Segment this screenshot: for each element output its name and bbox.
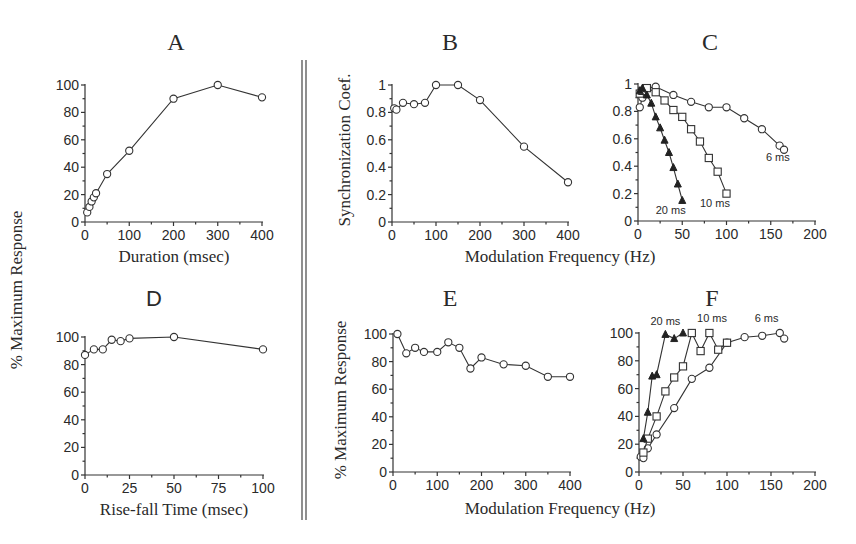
circle-marker — [104, 170, 111, 177]
triangle-marker — [648, 99, 655, 106]
triangle-marker — [662, 330, 669, 337]
x-tick-label: 200 — [803, 477, 827, 493]
series-response — [81, 333, 266, 358]
x-tick-label: 200 — [470, 477, 494, 493]
x-tick-label: 100 — [426, 477, 450, 493]
x-tick-label: 150 — [759, 226, 783, 242]
panel-letter-f: F — [705, 285, 718, 311]
x-tick-label: 100 — [715, 226, 739, 242]
x-tick-label: 100 — [424, 227, 448, 243]
y-tick-label: 0 — [379, 464, 387, 480]
circle-marker — [126, 335, 133, 342]
x-tick-label: 0 — [635, 477, 643, 493]
circle-marker — [670, 91, 677, 98]
series-label: 20 ms — [650, 315, 680, 327]
x-tick-label: 100 — [251, 480, 275, 496]
circle-marker — [410, 101, 417, 108]
circle-marker — [170, 333, 177, 340]
y-tick-label: 0.4 — [613, 158, 633, 174]
x-tick-label: 0 — [389, 477, 397, 493]
circle-marker — [723, 104, 730, 111]
y-tick-label: 0.6 — [613, 131, 633, 147]
y-tick-label: 100 — [610, 325, 634, 341]
series-sync — [391, 81, 572, 185]
y-tick-label: 20 — [63, 439, 79, 455]
square-marker — [662, 388, 669, 395]
square-marker — [688, 329, 695, 336]
y-tick-label: 40 — [371, 409, 387, 425]
circle-marker — [544, 373, 551, 380]
circle-marker — [522, 362, 529, 369]
triangle-marker — [644, 408, 651, 415]
x-tick-label: 400 — [558, 477, 582, 493]
circle-marker — [117, 338, 124, 345]
triangle-marker — [653, 371, 660, 378]
square-marker — [715, 346, 722, 353]
circle-marker — [564, 179, 571, 186]
triangle-marker — [670, 164, 677, 171]
y-tick-label: 80 — [371, 354, 387, 370]
square-marker — [688, 126, 695, 133]
circle-marker — [214, 81, 221, 88]
panel-divider — [302, 60, 306, 520]
y-tick-label: 0 — [624, 213, 632, 229]
y-tick-label: 80 — [63, 104, 79, 120]
circle-marker — [393, 106, 400, 113]
panel-letter-e: E — [443, 285, 458, 311]
square-marker — [723, 339, 730, 346]
x-tick-label: 100 — [715, 477, 739, 493]
triangle-marker — [661, 136, 668, 143]
circle-marker — [478, 354, 485, 361]
y-tick-label: 20 — [63, 187, 79, 203]
x-tick-label: 400 — [556, 227, 580, 243]
y-tick-label: 60 — [63, 132, 79, 148]
circle-marker — [500, 361, 507, 368]
x-tick-label: 200 — [162, 227, 186, 243]
y-tick-label: 0 — [71, 467, 79, 483]
panel-b: B010020030040000.20.40.60.81Synchronizat… — [335, 29, 580, 243]
series-label: 20 ms — [656, 204, 686, 216]
x-tick-label: 300 — [206, 227, 230, 243]
circle-marker — [520, 143, 527, 150]
panels-container: A0100200300400020406080100Duration (msec… — [7, 29, 827, 519]
y-tick-label: 80 — [617, 353, 633, 369]
y-tick-label: 100 — [364, 326, 388, 342]
y-tick-label: 0.6 — [367, 132, 387, 148]
x-tick-label: 25 — [122, 480, 138, 496]
square-marker — [697, 347, 704, 354]
circle-marker — [403, 350, 410, 357]
x-tick-label: 0 — [81, 480, 89, 496]
series-line — [640, 87, 784, 150]
y-tick-label: 80 — [63, 357, 79, 373]
series-label: 6 ms — [755, 312, 779, 324]
circle-marker — [741, 334, 748, 341]
y-tick-label: 0 — [378, 214, 386, 230]
square-marker — [714, 168, 721, 175]
circle-marker — [467, 365, 474, 372]
y-tick-label: 60 — [63, 384, 79, 400]
panel-letter-d: D — [146, 286, 162, 311]
x-tick-label: 50 — [674, 226, 690, 242]
ylabel-b: Synchronization Coef. — [335, 74, 354, 227]
x-tick-label: 50 — [166, 480, 182, 496]
circle-marker — [434, 348, 441, 355]
circle-marker — [420, 348, 427, 355]
panel-d: D0255075100020406080100Rise-fall Time (m… — [56, 286, 275, 519]
xlabel-modulation-frequency-bottom: Modulation Frequency (Hz) — [465, 499, 656, 518]
y-tick-label: 20 — [371, 436, 387, 452]
x-tick-label: 0 — [634, 226, 642, 242]
square-marker — [671, 374, 678, 381]
triangle-marker — [674, 180, 681, 187]
circle-marker — [759, 332, 766, 339]
y-tick-label: 40 — [617, 408, 633, 424]
circle-marker — [741, 115, 748, 122]
circle-marker — [636, 104, 643, 111]
circle-marker — [688, 98, 695, 105]
square-marker — [696, 138, 703, 145]
circle-marker — [259, 346, 266, 353]
triangle-marker — [657, 124, 664, 131]
square-marker — [640, 449, 647, 456]
y-tick-label: 0.2 — [367, 187, 387, 203]
y-tick-label: 0 — [625, 464, 633, 480]
x-tick-label: 400 — [250, 227, 274, 243]
